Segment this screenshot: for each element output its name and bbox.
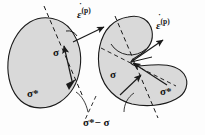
strain-rate-superscript-left: (p) <box>82 6 91 15</box>
difference-text: σ*− σ <box>83 116 110 128</box>
diagram-svg <box>0 0 205 135</box>
strain-rate-label-left: ε ˙ (p) <box>77 6 91 20</box>
sigma-label-right: σ <box>110 68 116 80</box>
epsilon-dot-left: ˙ <box>79 1 82 11</box>
sigma-star-text-left: σ* <box>27 87 38 99</box>
sigma-star-text-right: σ* <box>160 85 171 97</box>
epsilon-dot-right: ˙ <box>158 12 161 22</box>
difference-label: σ*− σ <box>83 116 110 128</box>
sigma-star-label-right: σ* <box>160 85 171 97</box>
strain-rate-label-right: ε ˙ (p) <box>156 17 170 31</box>
sigma-label-left: σ <box>53 46 59 58</box>
figure-canvas: ε ˙ (p) ε ˙ (p) σ σ* σ σ* σ*− σ <box>0 0 205 135</box>
sigma-star-label-left: σ* <box>27 87 38 99</box>
strain-rate-superscript-right: (p) <box>161 17 170 26</box>
strain-rate-arrow-left <box>73 27 104 42</box>
nonconvex-yield-surface-shape <box>98 16 186 105</box>
